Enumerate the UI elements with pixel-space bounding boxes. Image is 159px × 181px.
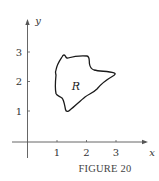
y-axis-arrow-icon <box>25 19 29 25</box>
figure-canvas: 1 2 3 3 2 1 x y R FIGURE 20 <box>0 0 159 181</box>
x-tick-label-2: 2 <box>83 147 89 158</box>
y-tick-label-2: 2 <box>16 76 22 87</box>
x-tick-label-3: 3 <box>113 147 119 158</box>
figure-caption: FIGURE 20 <box>79 163 132 174</box>
x-axis <box>12 140 148 144</box>
y-tick-label-3: 3 <box>16 47 22 58</box>
x-axis-arrow-icon <box>142 140 148 144</box>
y-axis <box>25 19 30 158</box>
x-tick-label-1: 1 <box>54 147 60 158</box>
x-axis-label: x <box>149 147 155 158</box>
y-axis-label: y <box>34 15 41 26</box>
region-boundary-curve <box>55 55 115 111</box>
region-label: R <box>71 80 80 93</box>
y-tick-label-1: 1 <box>16 106 22 117</box>
